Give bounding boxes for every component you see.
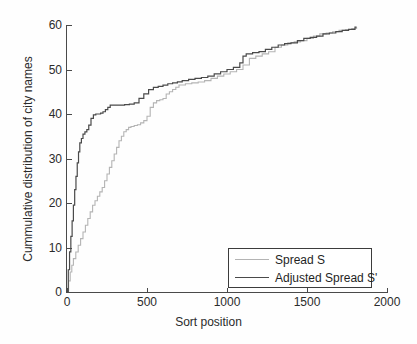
y-tick-label: 40	[38, 108, 62, 120]
x-tick-mark	[227, 288, 228, 293]
y-tick-label-wrap: 50	[38, 64, 62, 76]
x-tick-label: 2000	[364, 296, 410, 308]
y-tick-label: 50	[38, 64, 62, 76]
y-tick-label-wrap: 30	[38, 153, 62, 165]
y-tick-mark	[67, 70, 72, 71]
x-tick-mark	[307, 288, 308, 293]
y-tick-label: 20	[38, 197, 62, 209]
y-axis-label: Cummulative distribution of city names	[21, 39, 35, 279]
y-tick-label: 10	[38, 242, 62, 254]
x-tick-label-wrap: 0	[44, 296, 90, 308]
legend-swatch-adjusted-spread-s	[235, 273, 269, 283]
y-tick-label-wrap: 60	[38, 19, 62, 31]
x-tick-label: 500	[124, 296, 170, 308]
y-tick-mark	[67, 203, 72, 204]
x-tick-mark	[387, 288, 388, 293]
y-tick-label-wrap: 40	[38, 108, 62, 120]
y-tick-label: 30	[38, 153, 62, 165]
y-tick-label-wrap: 10	[38, 242, 62, 254]
x-tick-label-wrap: 1500	[284, 296, 330, 308]
x-tick-label: 1000	[204, 296, 250, 308]
legend-item-spread-s: Spread S	[229, 250, 371, 269]
chart-figure: 0102030405060 0500100015002000 Sort posi…	[0, 0, 417, 344]
x-tick-label: 0	[44, 296, 90, 308]
legend-item-adjusted-spread-s: Adjusted Spread S'	[229, 268, 371, 287]
legend-label-adjusted-spread-s: Adjusted Spread S'	[275, 271, 377, 285]
x-tick-label-wrap: 2000	[364, 296, 410, 308]
x-tick-label: 1500	[284, 296, 330, 308]
y-tick-mark	[67, 114, 72, 115]
legend-label-spread-s: Spread S	[275, 253, 325, 267]
y-tick-mark	[67, 248, 72, 249]
x-tick-label-wrap: 1000	[204, 296, 250, 308]
y-tick-label: 60	[38, 19, 62, 31]
legend-box: Spread S Adjusted Spread S'	[228, 248, 372, 288]
y-tick-mark	[67, 159, 72, 160]
x-axis-label: Sort position	[0, 315, 417, 329]
x-tick-mark	[147, 288, 148, 293]
x-tick-label-wrap: 500	[124, 296, 170, 308]
legend-swatch-spread-s	[235, 255, 269, 265]
y-tick-label-wrap: 20	[38, 197, 62, 209]
y-tick-mark	[67, 25, 72, 26]
x-tick-mark	[67, 288, 68, 293]
